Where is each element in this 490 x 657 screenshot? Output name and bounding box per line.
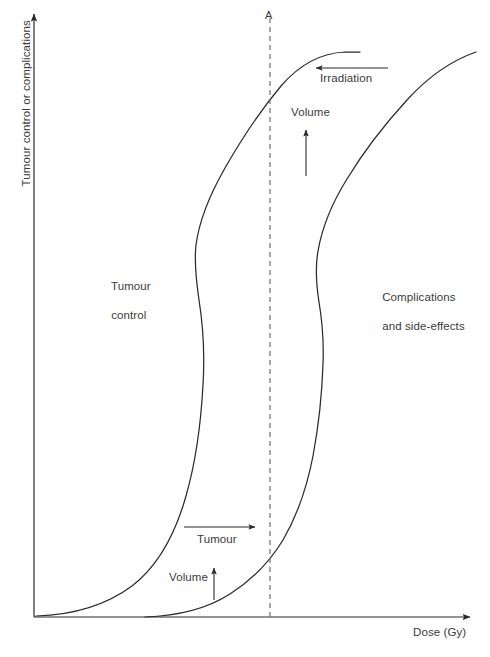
y-axis-label: Tumour control or complications — [19, 0, 34, 213]
complications-region-label: Complications and side-effects — [369, 275, 465, 348]
marker-a-label: A — [265, 8, 272, 23]
tumour-control-region-line1: Tumour — [111, 280, 151, 292]
volume-upper-annotation-label: Volume — [291, 105, 330, 120]
complications-region-line1: Complications — [382, 291, 456, 303]
tumour-control-region-label: Tumour control — [98, 264, 151, 337]
irradiation-annotation-label: Irradiation — [320, 71, 372, 86]
dose-response-figure: Tumour control or complications Dose (Gy… — [0, 0, 490, 657]
complications-region-line2: and side-effects — [382, 320, 465, 332]
x-axis-label: Dose (Gy) — [413, 625, 466, 640]
tumour-control-region-line2: control — [111, 309, 146, 321]
volume-lower-annotation-label: Volume — [169, 570, 208, 585]
tumour-shift-annotation-label: Tumour — [197, 532, 237, 547]
